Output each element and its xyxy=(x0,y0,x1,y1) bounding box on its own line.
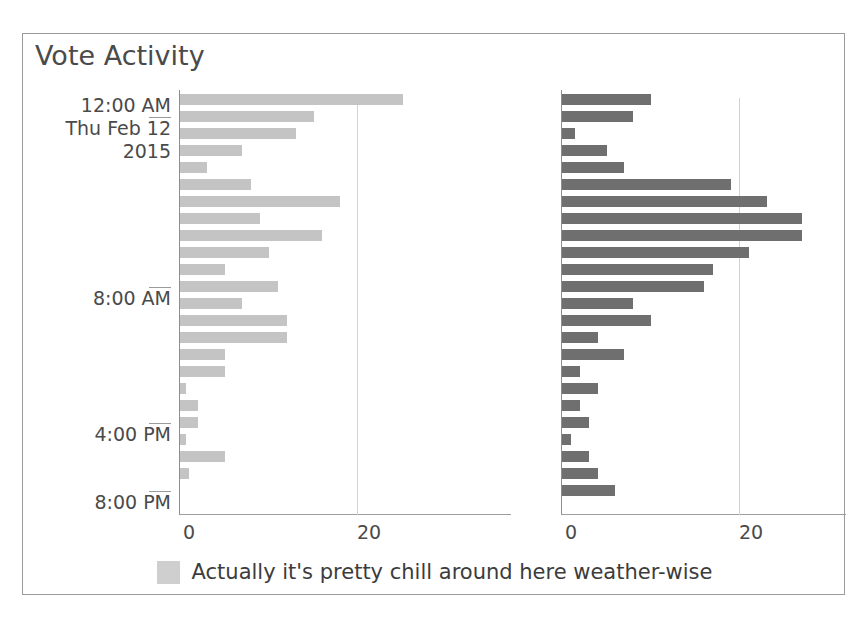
bar-right-10 xyxy=(562,264,713,275)
chart-panel-right: 0 20 xyxy=(561,90,846,515)
x-tick-left-0: 0 xyxy=(183,521,195,543)
bar-right-9 xyxy=(562,247,749,258)
bar-right-11 xyxy=(562,281,704,292)
bar-left-14 xyxy=(180,332,287,343)
x-axis-line-left xyxy=(179,514,511,515)
bar-right-4 xyxy=(562,162,624,173)
bar-right-19 xyxy=(562,417,589,428)
chart-panel-left: 12:00 AMThu Feb 1220158:00 AM4:00 PM8:00… xyxy=(179,90,511,515)
bar-left-10 xyxy=(180,264,225,275)
bar-right-21 xyxy=(562,451,589,462)
plot-area: 12:00 AMThu Feb 1220158:00 AM4:00 PM8:00… xyxy=(23,34,846,596)
bar-left-11 xyxy=(180,281,278,292)
bar-right-1 xyxy=(562,111,633,122)
x-axis-line-right xyxy=(561,514,846,515)
bar-left-9 xyxy=(180,247,269,258)
scan-artifact-top xyxy=(0,0,868,14)
bar-left-8 xyxy=(180,230,322,241)
y-tick-label-line: 8:00 PM xyxy=(94,491,171,514)
bar-left-7 xyxy=(180,213,260,224)
bar-right-6 xyxy=(562,196,767,207)
bar-left-20 xyxy=(180,434,186,445)
y-tick-label-line: 12:00 AM xyxy=(65,94,171,117)
gridline-left-20 xyxy=(357,98,358,515)
bar-left-5 xyxy=(180,179,251,190)
y-tick-label-0: 12:00 AMThu Feb 122015 xyxy=(65,94,171,163)
bar-right-16 xyxy=(562,366,580,377)
x-tick-left-20: 20 xyxy=(357,521,381,543)
chart-legend: Actually it's pretty chill around here w… xyxy=(23,560,846,584)
chart-frame: Vote Activity 12:00 AMThu Feb 1220158:00… xyxy=(22,33,845,595)
y-tick-label-line: Thu Feb 12 xyxy=(65,117,171,140)
bar-right-18 xyxy=(562,400,580,411)
bar-right-17 xyxy=(562,383,598,394)
x-tick-right-0: 0 xyxy=(565,521,577,543)
bar-right-2 xyxy=(562,128,575,139)
bar-left-17 xyxy=(180,383,186,394)
bar-left-2 xyxy=(180,128,296,139)
bar-right-15 xyxy=(562,349,624,360)
bar-left-4 xyxy=(180,162,207,173)
bar-left-19 xyxy=(180,417,198,428)
x-tick-right-20: 20 xyxy=(739,521,763,543)
y-tick-label-1: 8:00 AM xyxy=(93,287,171,310)
bar-right-3 xyxy=(562,145,607,156)
bar-left-12 xyxy=(180,298,242,309)
bar-right-5 xyxy=(562,179,731,190)
y-tick-label-line: 2015 xyxy=(65,140,171,163)
legend-swatch-icon xyxy=(157,561,180,584)
bar-right-13 xyxy=(562,315,651,326)
y-tick-label-2: 4:00 PM xyxy=(94,423,171,446)
bar-right-22 xyxy=(562,468,598,479)
bar-right-12 xyxy=(562,298,633,309)
bar-right-8 xyxy=(562,230,802,241)
y-tick-label-line: 4:00 PM xyxy=(94,423,171,446)
bar-right-14 xyxy=(562,332,598,343)
bar-right-0 xyxy=(562,94,651,105)
y-tick-label-line: 8:00 AM xyxy=(93,287,171,310)
bar-left-0 xyxy=(180,94,403,105)
bar-left-21 xyxy=(180,451,225,462)
legend-label: Actually it's pretty chill around here w… xyxy=(192,560,713,584)
bar-left-13 xyxy=(180,315,287,326)
bar-left-18 xyxy=(180,400,198,411)
bar-left-1 xyxy=(180,111,314,122)
bar-right-20 xyxy=(562,434,571,445)
bar-left-15 xyxy=(180,349,225,360)
bar-left-6 xyxy=(180,196,340,207)
bar-left-3 xyxy=(180,145,242,156)
bar-right-23 xyxy=(562,485,615,496)
gridline-right-20 xyxy=(739,98,740,515)
bar-left-22 xyxy=(180,468,189,479)
bar-left-16 xyxy=(180,366,225,377)
y-tick-label-3: 8:00 PM xyxy=(94,491,171,514)
bar-right-7 xyxy=(562,213,802,224)
